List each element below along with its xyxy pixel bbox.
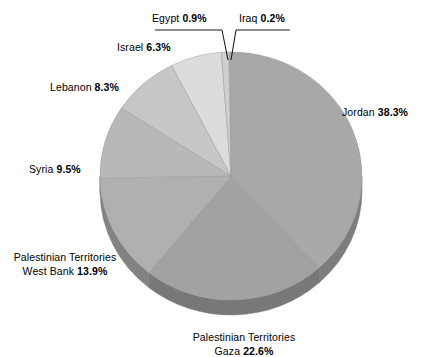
slice-label-west-bank-line1: Palestinian Territories <box>14 251 117 263</box>
slice-label-lebanon: Lebanon 8.3% <box>50 81 119 94</box>
slice-label-west-bank: Palestinian Territories West Bank 13.9% <box>6 251 124 278</box>
slice-label-gaza-line1: Palestinian Territories <box>193 331 296 343</box>
slice-label-egypt-value: 0.9% <box>182 12 206 24</box>
slice-label-syria: Syria 9.5% <box>29 163 81 176</box>
slice-label-israel-value: 6.3% <box>146 41 170 53</box>
slice-label-israel-name: Israel <box>117 41 143 53</box>
slice-label-lebanon-name: Lebanon <box>50 81 92 93</box>
slice-label-gaza: Palestinian Territories Gaza 22.6% <box>186 331 302 357</box>
pie-chart: Egypt 0.9% Iraq 0.2% Israel 6.3% Lebanon… <box>0 0 428 357</box>
slice-label-jordan-name: Jordan <box>342 106 375 118</box>
slice-label-syria-name: Syria <box>29 163 53 175</box>
slice-label-iraq: Iraq 0.2% <box>239 12 285 25</box>
slice-label-egypt-name: Egypt <box>152 12 179 24</box>
slice-label-gaza-value: 22.6% <box>243 345 273 357</box>
pie-chart-graphic <box>0 0 428 357</box>
slice-label-west-bank-name: West Bank <box>23 265 74 277</box>
pie-top-faces <box>100 52 362 300</box>
slice-label-iraq-value: 0.2% <box>261 12 285 24</box>
slice-label-israel: Israel 6.3% <box>117 41 171 54</box>
slice-label-west-bank-value: 13.9% <box>77 265 107 277</box>
slice-label-lebanon-value: 8.3% <box>95 81 119 93</box>
slice-label-iraq-name: Iraq <box>239 12 258 24</box>
slice-label-egypt: Egypt 0.9% <box>152 12 207 25</box>
slice-label-jordan-value: 38.3% <box>378 106 408 118</box>
slice-label-syria-value: 9.5% <box>56 163 80 175</box>
slice-label-gaza-name: Gaza <box>215 345 241 357</box>
slice-label-jordan: Jordan 38.3% <box>342 106 408 119</box>
